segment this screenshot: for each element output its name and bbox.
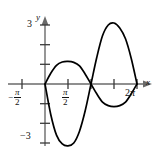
- x-tick-label-two-pi: 2π: [125, 88, 135, 98]
- x-tick-label-pi-over-2: π2: [62, 88, 69, 108]
- pi-glyph: π: [63, 87, 68, 97]
- x-axis-label: x: [146, 78, 150, 87]
- pi-glyph: π: [130, 87, 135, 98]
- fraction-denominator: 2: [62, 98, 69, 107]
- y-tick-label-minus-3: −3: [20, 131, 31, 141]
- fraction-pi-over-2-positive: π2: [62, 88, 69, 108]
- fraction-denominator: 2: [14, 98, 21, 107]
- pi-glyph: π: [15, 87, 20, 97]
- x-tick-label-minus-pi-over-2: −π2: [8, 88, 21, 108]
- y-axis-arrow-icon: [42, 16, 49, 25]
- y-axis-label: y: [36, 13, 40, 22]
- minus-sign: −: [8, 93, 13, 102]
- fraction-pi-over-2: π2: [14, 88, 21, 108]
- chart-figure: y x 3 −3 −π2 π2 2π: [0, 0, 155, 152]
- y-tick-label-3: 3: [27, 19, 32, 29]
